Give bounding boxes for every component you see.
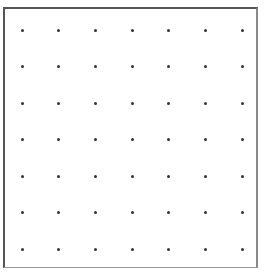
grid-dot (21, 29, 24, 32)
grid-dot (94, 102, 97, 105)
grid-dot (94, 248, 97, 251)
grid-dot (131, 138, 134, 141)
grid-dot (167, 29, 170, 32)
grid-dot (94, 65, 97, 68)
grid-dot (21, 211, 24, 214)
grid-dot (131, 102, 134, 105)
grid-dot (94, 138, 97, 141)
grid-dot (21, 65, 24, 68)
grid-dot (131, 248, 134, 251)
grid-dot (94, 211, 97, 214)
grid-dot (204, 102, 207, 105)
grid-dot (204, 211, 207, 214)
grid-dot (167, 248, 170, 251)
grid-dot (94, 175, 97, 178)
grid-dot (204, 138, 207, 141)
grid-dot (241, 138, 244, 141)
grid-dot (241, 175, 244, 178)
canvas (0, 0, 264, 273)
grid-dot (57, 29, 60, 32)
grid-dot (57, 138, 60, 141)
grid-dot (204, 29, 207, 32)
grid-dot (57, 102, 60, 105)
grid-dot (241, 248, 244, 251)
grid-dot (204, 65, 207, 68)
grid-dot (167, 102, 170, 105)
grid-dot (241, 29, 244, 32)
grid-dot (131, 175, 134, 178)
grid-dot (204, 248, 207, 251)
grid-dot (131, 211, 134, 214)
grid-dot (167, 138, 170, 141)
grid-dot (57, 65, 60, 68)
grid-dot (57, 211, 60, 214)
grid-dot (204, 175, 207, 178)
grid-dot (167, 65, 170, 68)
grid-dot (21, 102, 24, 105)
grid-dot (167, 211, 170, 214)
grid-dot (241, 211, 244, 214)
grid-dot (21, 248, 24, 251)
grid-dot (57, 175, 60, 178)
grid-dot (131, 65, 134, 68)
grid-dot (241, 65, 244, 68)
grid-dot (241, 102, 244, 105)
grid-dot (57, 248, 60, 251)
grid-dot (167, 175, 170, 178)
grid-dot (131, 29, 134, 32)
grid-dot (21, 175, 24, 178)
grid-dot (94, 29, 97, 32)
grid-dot (21, 138, 24, 141)
